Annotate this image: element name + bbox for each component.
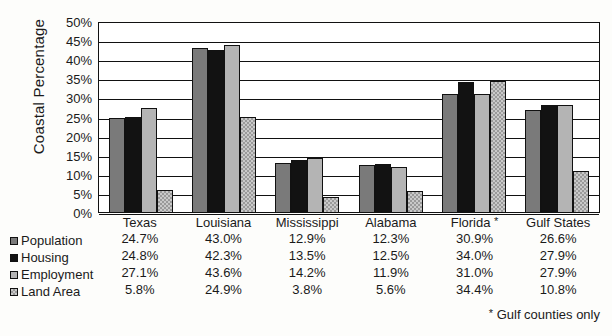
legend-swatch-icon [10, 254, 18, 262]
table-cell: 43.0% [182, 231, 266, 248]
bar [224, 45, 240, 212]
y-tick-label: 5% [73, 186, 92, 201]
chart-legend: PopulationHousingEmploymentLand Area [10, 232, 100, 300]
bar [240, 117, 256, 212]
y-tick-label: 35% [66, 72, 92, 87]
footnote-text: Gulf counties only [497, 307, 600, 322]
plot-area [98, 22, 600, 213]
x-tick-label: Mississippi [265, 215, 349, 230]
legend-item: Employment [10, 266, 100, 283]
footnote: * Gulf counties only [489, 307, 600, 322]
y-tick-label: 0% [73, 206, 92, 221]
bar [157, 190, 173, 212]
table-cell: 27.9% [516, 248, 600, 265]
bar-group [432, 23, 515, 212]
y-tick-label: 45% [66, 34, 92, 49]
legend-label: Land Area [21, 284, 80, 299]
bar [458, 82, 474, 212]
table-cell: 12.5% [349, 248, 433, 265]
bar-group [99, 23, 182, 212]
chart-figure: Coastal Percentage 50%45%40%35%30%25%20%… [0, 0, 612, 336]
table-cell: 24.9% [182, 282, 266, 299]
table-cell: 34.4% [433, 282, 517, 299]
table-row: 24.8%42.3%13.5%12.5%34.0%27.9% [98, 248, 600, 265]
y-tick-label: 40% [66, 53, 92, 68]
bar [391, 167, 407, 212]
x-tick-label: Alabama [349, 215, 433, 230]
table-cell: 10.8% [516, 282, 600, 299]
bar [208, 50, 224, 212]
legend-label: Housing [21, 250, 69, 265]
bar-groups [99, 23, 599, 212]
bar [407, 191, 423, 212]
bar [275, 163, 291, 212]
legend-item: Population [10, 232, 100, 249]
table-cell: 31.0% [433, 265, 517, 282]
bar [490, 81, 506, 212]
bar [359, 165, 375, 212]
y-tick-label: 20% [66, 129, 92, 144]
y-axis-title: Coastal Percentage [30, 0, 47, 187]
bar [442, 94, 458, 212]
table-row: 24.7%43.0%12.9%12.3%30.9%26.6% [98, 231, 600, 248]
table-cell: 26.6% [516, 231, 600, 248]
table-cell: 13.5% [265, 248, 349, 265]
table-cell: 14.2% [265, 265, 349, 282]
table-cell: 5.8% [98, 282, 182, 299]
y-tick-label: 50% [66, 15, 92, 30]
legend-swatch-icon [10, 288, 18, 296]
legend-item: Land Area [10, 283, 100, 300]
bar-group [516, 23, 599, 212]
bar [192, 48, 208, 212]
table-cell: 27.1% [98, 265, 182, 282]
x-tick-label: Florida * [433, 215, 517, 230]
x-axis-category-labels: TexasLouisianaMississippiAlabamaFlorida … [98, 215, 600, 230]
x-tick-label: Louisiana [182, 215, 266, 230]
footnote-marker-icon: * [494, 215, 498, 227]
bar [375, 164, 391, 212]
bar-group [266, 23, 349, 212]
table-cell: 5.6% [349, 282, 433, 299]
bar [573, 171, 589, 212]
legend-swatch-icon [10, 271, 18, 279]
legend-label: Employment [21, 267, 93, 282]
table-cell: 27.9% [516, 265, 600, 282]
table-cell: 30.9% [433, 231, 517, 248]
table-cell: 24.7% [98, 231, 182, 248]
table-cell: 34.0% [433, 248, 517, 265]
table-cell: 3.8% [265, 282, 349, 299]
bar [307, 158, 323, 212]
table-cell: 42.3% [182, 248, 266, 265]
bar [109, 118, 125, 212]
bar-group [349, 23, 432, 212]
bar [525, 110, 541, 212]
table-cell: 12.3% [349, 231, 433, 248]
legend-label: Population [21, 233, 82, 248]
bar [474, 94, 490, 212]
table-cell: 12.9% [265, 231, 349, 248]
table-row: 5.8%24.9%3.8%5.6%34.4%10.8% [98, 282, 600, 299]
bar-group [182, 23, 265, 212]
bar [557, 105, 573, 212]
bar [125, 117, 141, 212]
bar [541, 105, 557, 212]
bar [323, 197, 339, 212]
x-tick-label: Gulf States [516, 215, 600, 230]
table-row: 27.1%43.6%14.2%11.9%31.0%27.9% [98, 265, 600, 282]
legend-item: Housing [10, 249, 100, 266]
data-table: 24.7%43.0%12.9%12.3%30.9%26.6%24.8%42.3%… [98, 231, 600, 299]
table-cell: 24.8% [98, 248, 182, 265]
table-cell: 11.9% [349, 265, 433, 282]
y-tick-label: 25% [66, 110, 92, 125]
footnote-star-icon: * [489, 307, 493, 319]
y-axis-tick-labels: 50%45%40%35%30%25%20%15%10%5%0% [54, 22, 96, 213]
y-tick-label: 30% [66, 91, 92, 106]
y-tick-label: 10% [66, 167, 92, 182]
table-cell: 43.6% [182, 265, 266, 282]
legend-swatch-icon [10, 237, 18, 245]
y-tick-label: 15% [66, 148, 92, 163]
bar [291, 160, 307, 212]
x-tick-label: Texas [98, 215, 182, 230]
bar [141, 108, 157, 212]
